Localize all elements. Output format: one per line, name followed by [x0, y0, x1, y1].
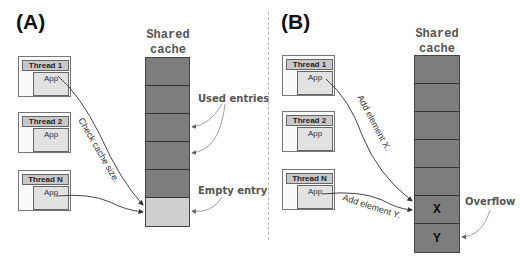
- overflow-arrow: [462, 210, 490, 237]
- check-cache-size-label: Check cache size.: [76, 116, 121, 184]
- add-element-x-label: Add element X.: [355, 93, 393, 152]
- used-entries-arrow-2: [192, 104, 225, 153]
- empty-entry-arrow: [192, 197, 222, 211]
- arrow-add-element-x: [326, 79, 412, 201]
- used-entries-arrow-1: [192, 104, 222, 127]
- arrow-thread-n-to-cache: [56, 195, 143, 212]
- arrow-check-cache-size: [58, 76, 143, 205]
- arrows-layer: Check cache size. Add element X. Add ele…: [0, 0, 520, 262]
